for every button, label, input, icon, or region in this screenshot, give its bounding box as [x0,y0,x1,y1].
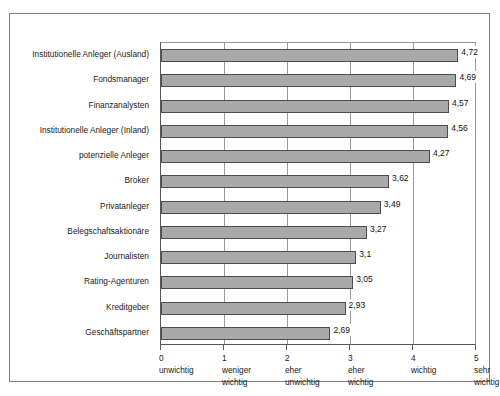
x-tick-number: 4 [411,352,436,364]
x-tick-number: 0 [159,352,194,364]
x-axis-tick-label: 3eherwichtig [348,352,373,388]
bar-row: 4,57 [161,94,475,119]
bar-row: 4,27 [161,144,475,169]
category-label: Institutionelle Anleger (Ausland) [32,42,149,67]
x-tick-text-line2: unwichtig [285,376,320,388]
category-label: Journalisten [104,244,149,269]
category-label: Rating-Agenturen [84,269,149,294]
bar [161,302,346,315]
x-tick-text-line1: eher [285,364,320,376]
bar [161,226,367,239]
category-label: Fondsmanager [93,67,149,92]
x-axis-tick [475,345,476,350]
x-axis-tick-label: 1wenigerwichtig [222,352,251,388]
category-label: Geschäftspartner [85,320,149,345]
x-tick-text-line1: eher [348,364,373,376]
category-label: Privatanleger [100,194,149,219]
bar-row: 2,93 [161,296,475,321]
bar-value-label: 4,27 [432,147,451,159]
bar-value-label: 4,57 [451,97,470,109]
x-axis-tick-label: 0unwichtig [159,352,194,376]
bar [161,49,458,62]
chart-figure-frame: Institutionelle Anleger (Ausland)Fondsma… [9,13,490,382]
category-label: Kreditgeber [106,295,149,320]
x-axis-tick-label: 2eherunwichtig [285,352,320,388]
x-tick-text-line1: sehr [474,364,499,376]
bar-value-label: 4,69 [458,71,477,83]
x-tick-text-line2: wichtig [474,376,499,388]
bar [161,276,353,289]
x-axis-tick [160,345,161,350]
bar-row: 4,72 [161,43,475,68]
bar [161,150,430,163]
x-axis-tick [286,345,287,350]
bar [161,74,456,87]
category-axis-labels: Institutionelle Anleger (Ausland)Fondsma… [10,42,155,345]
bar-value-label: 3,27 [369,223,388,235]
bar-row: 4,56 [161,119,475,144]
category-label: Institutionelle Anleger (Inland) [40,118,149,143]
bar [161,251,356,264]
x-tick-text-line2: wichtig [348,376,373,388]
x-tick-number: 3 [348,352,373,364]
category-label: Belegschaftsaktionäre [67,219,149,244]
bar-value-label: 2,93 [348,299,367,311]
x-axis-tick [223,345,224,350]
bar-row: 4,69 [161,68,475,93]
x-tick-text-line1: wichtig [411,364,436,376]
bar-row: 3,05 [161,270,475,295]
bar-row: 2,69 [161,321,475,346]
bar [161,125,448,138]
x-tick-text-line1: unwichtig [159,364,194,376]
bar-value-label: 3,05 [355,273,374,285]
category-label: Finanzanalysten [89,93,149,118]
bar-row: 3,27 [161,220,475,245]
bar-value-label: 4,72 [460,46,479,58]
bar-value-label: 3,49 [383,198,402,210]
x-axis-tick-label: 4wichtig [411,352,436,376]
category-label: Broker [125,168,149,193]
x-tick-number: 5 [474,352,499,364]
x-tick-text-line2: wichtig [222,376,251,388]
x-axis-tick [412,345,413,350]
x-axis: 0unwichtig1wenigerwichtig2eherunwichtig3… [160,345,476,396]
bar-row: 3,62 [161,169,475,194]
bar [161,201,381,214]
bar-row: 3,1 [161,245,475,270]
bar [161,327,330,340]
x-tick-number: 1 [222,352,251,364]
x-axis-tick-label: 5sehrwichtig [474,352,499,388]
bar-row: 3,49 [161,195,475,220]
bar-value-label: 3,62 [391,172,410,184]
bar [161,175,389,188]
x-axis-tick [349,345,350,350]
bar-value-label: 3,1 [358,248,372,260]
bar [161,100,449,113]
category-label: potenzielle Anleger [79,143,149,168]
bar-value-label: 2,69 [332,324,351,336]
x-tick-text-line1: weniger [222,364,251,376]
plot-area: 4,724,694,574,564,273,623,493,273,13,052… [160,42,476,345]
bar-value-label: 4,56 [450,122,469,134]
x-tick-number: 2 [285,352,320,364]
